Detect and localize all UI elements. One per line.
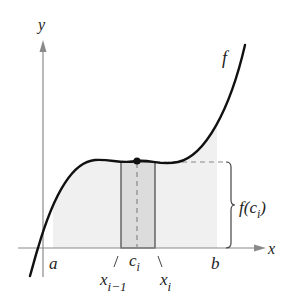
x-im1-pointer — [114, 256, 118, 267]
x-axis-label: x — [267, 240, 275, 257]
x-i-pointer — [158, 256, 162, 267]
interval-right-label: b — [211, 254, 220, 273]
sample-point — [133, 157, 140, 164]
height-brace-icon — [226, 162, 235, 248]
riemann-rectangle — [121, 162, 155, 248]
x-axis-arrow-icon — [254, 245, 266, 252]
y-axis-label: y — [36, 16, 46, 34]
function-label: f — [222, 48, 230, 68]
subinterval-left-label: xi−1 — [99, 270, 126, 294]
height-label: f(ci) — [239, 198, 266, 221]
sample-label: ci — [129, 251, 140, 274]
subinterval-right-label: xi — [159, 270, 172, 294]
interval-left-label: a — [49, 254, 58, 273]
y-axis-arrow-icon — [40, 40, 47, 52]
riemann-diagram: y x f a b ci xi−1 xi f(ci) — [0, 0, 293, 307]
